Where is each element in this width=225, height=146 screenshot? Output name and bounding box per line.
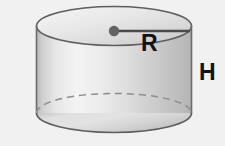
- radius-label: R: [141, 30, 158, 56]
- height-label: H: [199, 59, 216, 85]
- center-point-dot: [109, 26, 119, 36]
- cylinder-diagram-svg: R H: [0, 0, 225, 146]
- cylinder-figure: R H: [0, 0, 225, 146]
